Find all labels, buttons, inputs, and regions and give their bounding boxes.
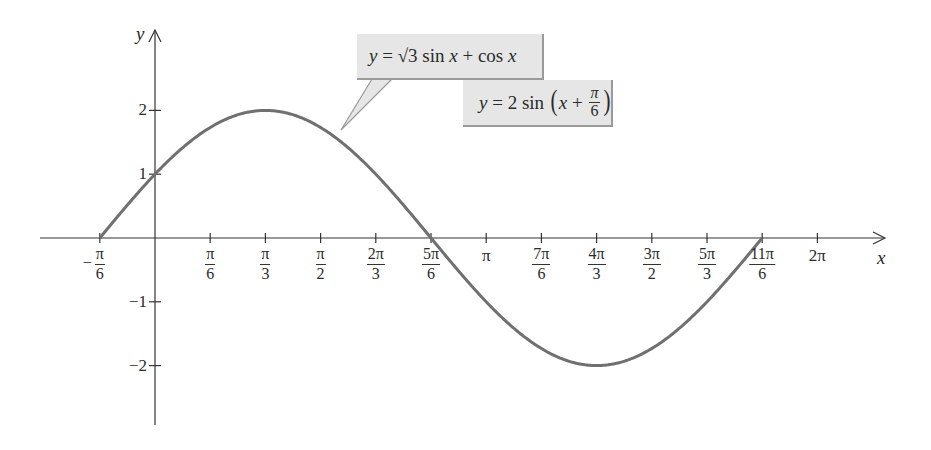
right-paren: ) bbox=[603, 83, 610, 117]
callout-pointer bbox=[341, 79, 392, 130]
x-tick-label: π3 bbox=[260, 246, 270, 283]
fraction-denominator: 6 bbox=[590, 103, 598, 120]
eq-var: x bbox=[449, 45, 457, 67]
y-axis-label: y bbox=[136, 24, 144, 43]
x-tick-label: 5π3 bbox=[698, 246, 716, 283]
x-tick-label: 5π6 bbox=[422, 246, 440, 283]
x-tick-label: π2 bbox=[316, 246, 326, 283]
x-tick-label: π bbox=[482, 247, 491, 264]
equation-callout-original: y = √3 sin x + cos x bbox=[357, 34, 544, 80]
eq-text: = √3 sin bbox=[377, 45, 449, 67]
eq-text: + bbox=[567, 92, 587, 114]
y-tick-label: 1 bbox=[139, 164, 148, 184]
eq-var: y bbox=[369, 45, 377, 67]
eq-var: y bbox=[479, 92, 487, 114]
pi-over-6-fraction: π6 bbox=[589, 85, 599, 120]
y-tick-label: −1 bbox=[129, 292, 147, 312]
x-tick-label: 11π6 bbox=[749, 246, 774, 283]
equation-callout-simplified: y = 2 sin (x + π6) bbox=[463, 80, 613, 127]
y-tick-label: −2 bbox=[129, 356, 147, 376]
x-tick-label: 7π6 bbox=[532, 246, 550, 283]
x-tick-label: 3π2 bbox=[643, 246, 661, 283]
x-axis-label: x bbox=[877, 248, 885, 267]
x-tick-label: 2π3 bbox=[367, 246, 385, 283]
eq-var: x bbox=[559, 92, 567, 114]
x-tick-label: 2π bbox=[809, 247, 826, 264]
x-tick-label: π6 bbox=[205, 246, 215, 283]
x-tick-label: π6− bbox=[95, 246, 105, 283]
eq-text: + cos bbox=[458, 45, 508, 67]
eq-var: x bbox=[508, 45, 516, 67]
eq-text: = 2 sin bbox=[487, 92, 548, 114]
fraction-numerator: π bbox=[589, 85, 599, 103]
left-paren: ( bbox=[550, 83, 557, 117]
x-tick-label: 4π3 bbox=[588, 246, 606, 283]
y-tick-label: 2 bbox=[139, 100, 148, 120]
